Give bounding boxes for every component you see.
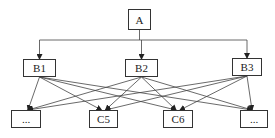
node-c5: C5 — [89, 110, 118, 128]
node-b1: B1 — [23, 59, 56, 77]
edge-b1-c1 — [28, 77, 40, 110]
edge-b1-c4 — [40, 77, 253, 110]
node-c6: C6 — [163, 110, 193, 128]
node-c1: ... — [11, 110, 41, 128]
edge-b3-c4 — [247, 76, 252, 110]
node-b2: B2 — [125, 59, 158, 77]
node-b3: B3 — [232, 58, 262, 76]
node-a: A — [128, 9, 151, 30]
node-c4: ... — [240, 110, 268, 128]
